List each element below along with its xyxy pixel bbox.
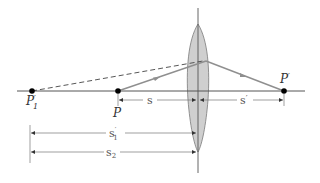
dimension-s-prime: s′ [200,93,283,107]
svg-text:s: s [147,94,153,107]
svg-text:s′: s′ [240,93,248,107]
dimension-s1-prime: s′1 [31,126,196,142]
ray-direction-arrow-icon [153,77,160,81]
label-p: P [112,106,122,120]
ray-direction-arrow-icon [240,73,247,77]
point-p [115,88,121,94]
dimension-s2: s2 [31,146,196,160]
virtual-ray-dashed [32,61,203,91]
point-p-prime [281,88,287,94]
dimension-s: s [119,94,196,107]
svg-text:s′1: s′1 [109,126,118,142]
svg-text:s2: s2 [106,146,116,160]
label-p-prime: P′ [279,71,290,86]
label-p1-prime: P′1 [25,93,38,111]
lens-diagram: P′1 P P′ s s′ s′1 s2 [0,0,320,183]
